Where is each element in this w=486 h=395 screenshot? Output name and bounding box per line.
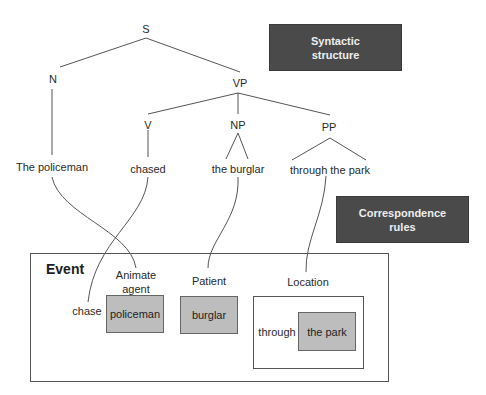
node-pp: PP bbox=[322, 120, 337, 134]
event-title: Event bbox=[46, 261, 84, 277]
node-s: S bbox=[142, 22, 149, 36]
policeman-box: policeman bbox=[106, 295, 164, 333]
leaf-chased: chased bbox=[130, 162, 165, 176]
leaf-through-the-park: through the park bbox=[290, 163, 370, 177]
node-np: NP bbox=[230, 118, 245, 132]
syntactic-structure-label: Syntactic structure bbox=[269, 24, 402, 71]
node-v: V bbox=[144, 118, 151, 132]
animate-agent-label: Animate agent bbox=[116, 268, 156, 296]
patient-label: Patient bbox=[192, 274, 226, 288]
through-label: through bbox=[258, 325, 295, 339]
burglar-box: burglar bbox=[180, 296, 238, 334]
node-n: N bbox=[49, 72, 57, 86]
leaf-the-burglar: the burglar bbox=[212, 162, 265, 176]
leaf-the-policeman: The policeman bbox=[16, 160, 88, 174]
the-park-box: the park bbox=[298, 312, 356, 351]
correspondence-rules-label: Correspondence rules bbox=[336, 196, 469, 243]
chase-label: chase bbox=[72, 304, 101, 318]
location-label: Location bbox=[287, 275, 329, 289]
node-vp: VP bbox=[233, 76, 248, 90]
